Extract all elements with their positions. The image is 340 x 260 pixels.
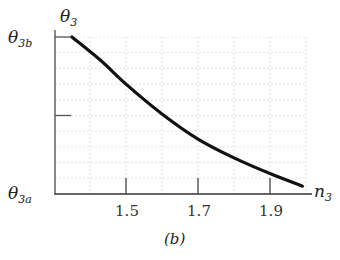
x-tick-label-1-7: 1.7 (187, 202, 211, 220)
chart-canvas (0, 0, 340, 260)
y-tick-label-bottom: θ3a (8, 183, 32, 206)
data-curve (72, 37, 302, 186)
figure-caption: (b) (164, 230, 185, 248)
y-tick-label-top: θ3b (8, 27, 32, 50)
x-tick-label-1-9: 1.9 (259, 202, 283, 220)
y-axis-label: θ3 (60, 6, 77, 29)
x-tick-label-1-5: 1.5 (115, 202, 139, 220)
grid-lines (55, 37, 306, 194)
x-axis-label: n3 (314, 181, 332, 204)
